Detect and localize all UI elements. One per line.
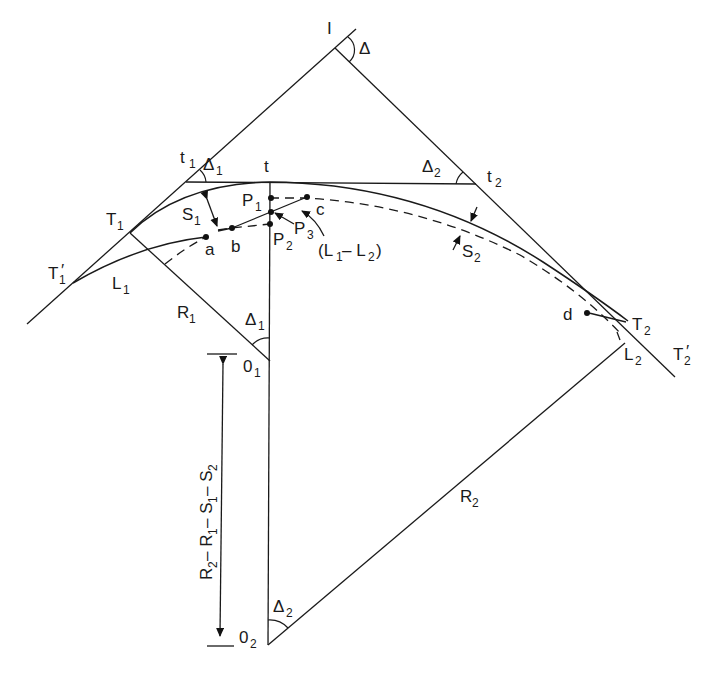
label-delta: Δ xyxy=(359,39,370,58)
right-tangent-line xyxy=(335,48,675,377)
svg-text:– S: – S xyxy=(197,470,216,496)
svg-text:2: 2 xyxy=(286,606,293,620)
svg-text:R: R xyxy=(177,303,189,322)
label-delta1-top: Δ 1 xyxy=(203,155,223,178)
label-b: b xyxy=(231,237,240,256)
svg-text:(L: (L xyxy=(318,241,333,260)
svg-text:2: 2 xyxy=(250,637,257,651)
svg-text:t: t xyxy=(487,167,492,186)
S1-arrow xyxy=(207,199,217,226)
svg-text:2: 2 xyxy=(635,354,642,368)
label-L2: L 2 xyxy=(624,345,642,368)
svg-text:1: 1 xyxy=(123,283,130,297)
point-P2 xyxy=(267,221,273,227)
svg-text:Δ: Δ xyxy=(245,310,256,329)
svg-text:P: P xyxy=(294,219,305,238)
svg-text:′: ′ xyxy=(61,261,64,280)
svg-text:P: P xyxy=(273,230,284,249)
svg-text:2: 2 xyxy=(644,324,651,338)
compound-curve-diagram: I Δ t 1 Δ 1 t Δ 2 t 2 T 1 S 1 P 1 P 2 P … xyxy=(0,0,719,674)
dim-arrow-line xyxy=(220,364,223,636)
label-T2: T 2 xyxy=(632,315,651,338)
svg-text:0: 0 xyxy=(239,628,248,647)
vertical-radius-line xyxy=(268,182,270,645)
point-d xyxy=(584,310,590,316)
svg-text:1: 1 xyxy=(206,496,220,503)
label-t1: t 1 xyxy=(180,148,196,171)
svg-text:– R: – R xyxy=(197,535,216,561)
svg-text:1: 1 xyxy=(189,157,196,171)
svg-text:2: 2 xyxy=(206,561,220,568)
point-c xyxy=(304,194,310,200)
svg-text:T: T xyxy=(632,315,642,334)
svg-text:T: T xyxy=(106,210,116,229)
label-L1-minus-L2: (L 1 – L 2 ) xyxy=(318,241,382,264)
left-tangent-line xyxy=(27,29,356,324)
offset-curve-solid-L1 xyxy=(73,237,206,283)
svg-text:– S: – S xyxy=(197,502,216,528)
label-S1: S 1 xyxy=(182,205,201,228)
svg-text:Δ: Δ xyxy=(273,597,284,616)
point-P3 xyxy=(268,209,274,215)
label-delta2-top: Δ 2 xyxy=(422,157,441,180)
svg-text:2: 2 xyxy=(434,166,441,180)
svg-text:Δ: Δ xyxy=(422,157,433,176)
label-t: t xyxy=(264,157,269,176)
label-P1: P 1 xyxy=(242,191,262,214)
S2-arrow-top xyxy=(471,207,477,221)
angle-delta1-at-O1 xyxy=(252,338,270,345)
svg-text:1: 1 xyxy=(194,214,201,228)
radius-R1-line xyxy=(130,233,270,361)
svg-text:1: 1 xyxy=(189,312,196,326)
svg-text:2: 2 xyxy=(286,239,293,253)
svg-text:1: 1 xyxy=(255,200,262,214)
svg-text:′: ′ xyxy=(686,342,689,361)
label-R2: R 2 xyxy=(460,487,479,510)
svg-text:): ) xyxy=(376,241,382,260)
svg-text:t: t xyxy=(180,148,185,167)
label-dimension-R2-R1-S1-S2: R 2 – R 1 – S 1 – S 2 xyxy=(197,464,220,580)
label-P3: P 3 xyxy=(294,219,314,242)
svg-text:R: R xyxy=(197,568,216,580)
angle-delta2-at-O2 xyxy=(268,620,288,628)
svg-text:3: 3 xyxy=(307,228,314,242)
svg-text:Δ: Δ xyxy=(203,155,214,174)
label-I: I xyxy=(327,19,332,38)
label-delta2-low: Δ 2 xyxy=(273,597,293,620)
label-T2-prime: T 2 ′ xyxy=(673,342,691,368)
svg-text:2: 2 xyxy=(206,464,220,471)
svg-text:R: R xyxy=(460,487,472,506)
svg-text:P: P xyxy=(242,191,253,210)
common-tangent-line xyxy=(186,182,476,184)
angle-delta-at-I xyxy=(348,37,355,62)
radius-R2-line xyxy=(268,343,625,645)
svg-text:S: S xyxy=(182,205,193,224)
label-O2: 0 2 xyxy=(239,628,257,651)
label-R1: R 1 xyxy=(177,303,196,326)
svg-text:1: 1 xyxy=(206,528,220,535)
angle-delta2-at-t2 xyxy=(456,172,463,184)
label-c: c xyxy=(316,200,325,219)
label-t2: t 2 xyxy=(487,167,502,190)
P3-arrow xyxy=(275,213,294,224)
label-T1: T 1 xyxy=(106,210,124,233)
label-delta1-low: Δ 1 xyxy=(245,310,265,333)
label-a: a xyxy=(205,240,215,259)
label-d: d xyxy=(563,305,572,324)
svg-text:1: 1 xyxy=(254,366,261,380)
svg-text:0: 0 xyxy=(243,357,252,376)
svg-text:1: 1 xyxy=(117,219,124,233)
point-b xyxy=(229,225,235,231)
label-S2: S 2 xyxy=(462,242,481,265)
L2-tick xyxy=(617,332,620,340)
svg-text:L: L xyxy=(112,274,121,293)
label-T1-prime: T 1 ′ xyxy=(48,261,66,287)
svg-text:T: T xyxy=(48,264,58,283)
svg-text:2: 2 xyxy=(495,176,502,190)
label-O1: 0 1 xyxy=(243,357,261,380)
svg-text:2: 2 xyxy=(472,496,479,510)
point-P1 xyxy=(268,195,274,201)
S2-arrow-bottom xyxy=(453,236,460,250)
svg-text:T: T xyxy=(673,345,683,364)
svg-text:2: 2 xyxy=(474,251,481,265)
